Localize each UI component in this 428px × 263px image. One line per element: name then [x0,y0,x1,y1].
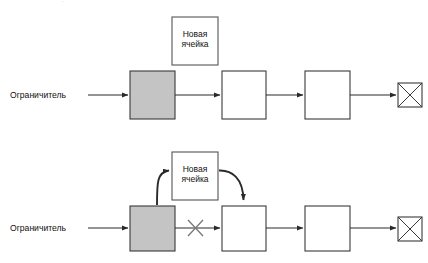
after-station-3-box[interactable] [305,206,350,251]
after-constraint-box[interactable] [130,206,175,251]
before-new-cell-box[interactable] [172,17,218,65]
before-constraint-caption: Ограничитель [10,90,66,100]
after-constraint-caption: Ограничитель [10,223,66,233]
after-new-cell-box[interactable] [172,152,218,200]
after-station-2-box[interactable] [222,206,266,251]
after-curve-new-cell-to-station-2 [219,170,244,200]
panel-after [88,152,422,251]
before-constraint-box[interactable] [130,71,175,119]
after-sink-crossed-box[interactable] [398,217,422,241]
before-station-2-box[interactable] [222,71,266,119]
panel-before [88,17,422,119]
before-sink-crossed-box[interactable] [398,83,422,107]
before-station-3-box[interactable] [305,71,350,119]
diagram-root: . [0,0,428,263]
after-curve-constraint-to-new-cell [157,171,169,206]
